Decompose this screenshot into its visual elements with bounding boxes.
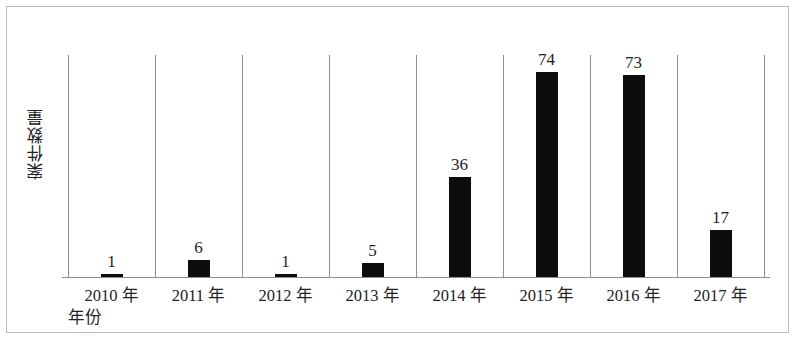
x-axis-line: [62, 277, 770, 278]
bar: [188, 260, 210, 277]
bar: [362, 263, 384, 277]
x-axis-tick-label: 2017 年: [677, 286, 764, 306]
gridline: [503, 55, 504, 277]
bar-value-label: 36: [416, 155, 503, 174]
x-axis-tick-label: 2010 年: [68, 286, 155, 306]
bar: [101, 274, 123, 277]
bar-value-label: 17: [677, 208, 764, 227]
x-axis-tick-label: 2011 年: [155, 286, 242, 306]
bar-value-label: 74: [503, 50, 590, 69]
x-axis-tick-label: 2012 年: [242, 286, 329, 306]
gridline: [677, 55, 678, 277]
chart-figure: 案件数量 年份 12010 年62011 年12012 年52013 年3620…: [0, 0, 807, 340]
x-axis-tick-label: 2014 年: [416, 286, 503, 306]
gridline: [764, 55, 765, 277]
gridline: [590, 55, 591, 277]
bar-value-label: 73: [590, 53, 677, 72]
x-axis-tick-label: 2015 年: [503, 286, 590, 306]
bar: [710, 230, 732, 277]
bar-value-label: 1: [242, 252, 329, 271]
x-axis-tick-label: 2016 年: [590, 286, 677, 306]
bar-value-label: 5: [329, 241, 416, 260]
bar-value-label: 1: [68, 252, 155, 271]
gridline: [68, 55, 69, 277]
x-axis-title: 年份: [68, 308, 102, 328]
x-axis-tick-label: 2013 年: [329, 286, 416, 306]
y-axis-title: 案件数量: [26, 108, 52, 180]
gridline: [242, 55, 243, 277]
bar: [275, 274, 297, 277]
bar: [536, 72, 558, 277]
bar: [623, 75, 645, 277]
bar-value-label: 6: [155, 238, 242, 257]
bar: [449, 177, 471, 277]
